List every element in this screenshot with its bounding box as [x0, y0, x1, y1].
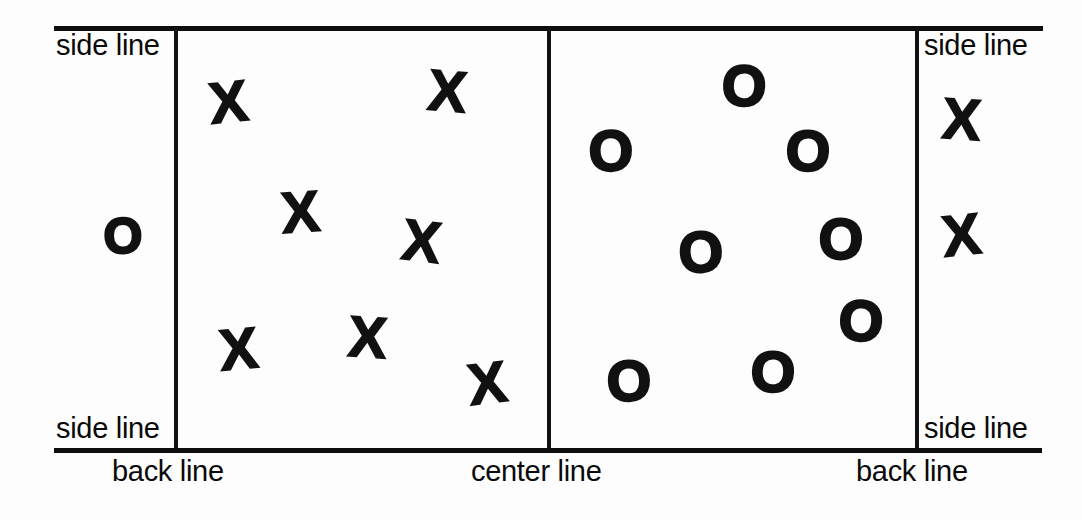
right-court-player-o: O: [720, 57, 767, 116]
left-court-player-x: X: [279, 183, 321, 243]
label-side-line-top-left: side line: [56, 31, 160, 60]
outside-left-player-o: O: [102, 210, 143, 262]
left-court-player-x: X: [206, 72, 250, 134]
left-side-line: [174, 28, 178, 450]
left-court-player-x: X: [426, 61, 469, 122]
label-back-line-right: back line: [856, 457, 968, 486]
right-court-player-o: O: [677, 223, 724, 282]
label-back-line-left: back line: [112, 457, 224, 486]
right-court-player-o: O: [750, 344, 797, 403]
right-court-player-o: O: [606, 353, 652, 412]
center-line-divider: [547, 28, 551, 450]
left-court-player-x: X: [346, 308, 388, 368]
left-court-player-x: X: [399, 211, 443, 273]
label-side-line-bottom-right: side line: [924, 414, 1028, 443]
outside-right-player-x: X: [940, 90, 982, 150]
label-side-line-top-right: side line: [924, 31, 1028, 60]
left-court-player-x: X: [217, 319, 260, 380]
right-court-player-o: O: [818, 211, 864, 269]
outside-right-player-x: X: [939, 205, 983, 267]
label-side-line-bottom-left: side line: [56, 414, 160, 443]
right-court-player-o: O: [785, 123, 832, 182]
right-court-player-o: O: [837, 292, 885, 352]
label-center-line: center line: [471, 457, 602, 486]
right-court-player-o: O: [588, 123, 634, 181]
right-side-line: [915, 28, 919, 450]
court-diagram: side line side line side line side line …: [0, 0, 1082, 520]
left-court-player-x: X: [465, 353, 509, 415]
